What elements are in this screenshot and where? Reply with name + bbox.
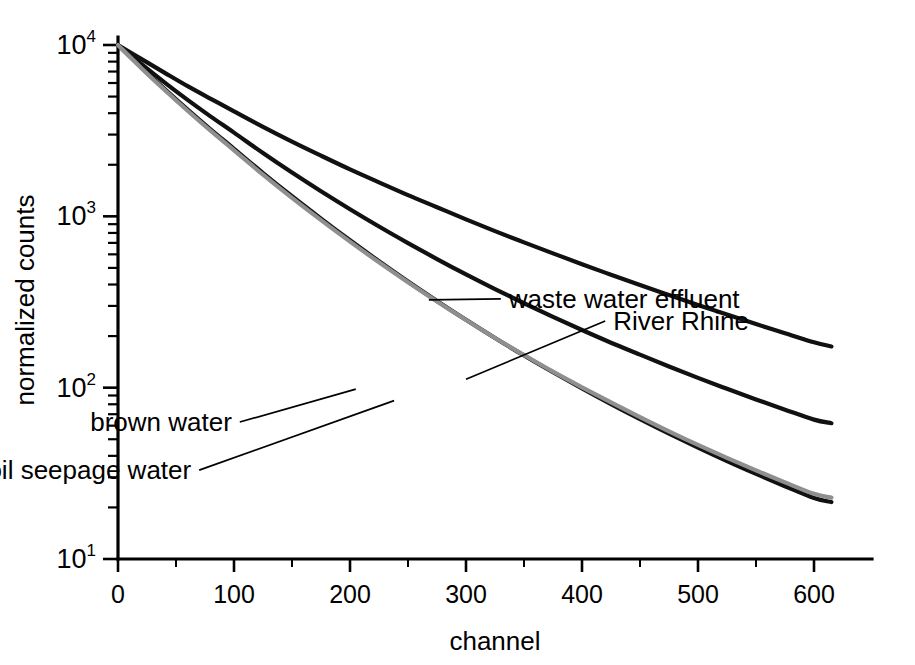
chart-figure: 101102103104 0100200300400500600 waste w… bbox=[0, 0, 915, 665]
x-tick-label: 600 bbox=[793, 580, 835, 608]
x-tick-label: 400 bbox=[561, 580, 603, 608]
annotation-leader-lines bbox=[199, 299, 605, 470]
series-curve-1 bbox=[118, 45, 831, 423]
x-tick-label: 0 bbox=[111, 580, 125, 608]
y-tick-label: 101 bbox=[56, 541, 96, 574]
line-chart-canvas: 101102103104 0100200300400500600 waste w… bbox=[0, 0, 915, 665]
x-tick-label: 500 bbox=[677, 580, 719, 608]
series-annotation-labels: waste water effluentRiver Rhinebrown wat… bbox=[0, 284, 749, 485]
leader-line-1 bbox=[466, 321, 605, 379]
x-tick-label: 300 bbox=[445, 580, 487, 608]
y-axis-tick-labels: 101102103104 bbox=[56, 27, 96, 574]
y-tick-exponent: 4 bbox=[87, 27, 96, 46]
y-tick-exponent: 1 bbox=[87, 541, 96, 560]
leader-line-0 bbox=[429, 299, 501, 300]
y-tick-exponent: 2 bbox=[87, 370, 96, 389]
y-tick-label: 104 bbox=[56, 27, 96, 60]
y-tick-exponent: 3 bbox=[87, 198, 96, 217]
series-label-1: River Rhine bbox=[613, 306, 749, 336]
y-tick-label: 102 bbox=[56, 370, 96, 403]
x-tick-label: 200 bbox=[329, 580, 371, 608]
x-axis-major-ticks bbox=[118, 559, 814, 572]
leader-line-2 bbox=[240, 389, 356, 422]
series-label-2: brown water bbox=[90, 407, 232, 437]
y-axis-title: normalized counts bbox=[10, 195, 40, 406]
x-axis-tick-labels: 0100200300400500600 bbox=[111, 580, 835, 608]
x-axis-title: channel bbox=[449, 626, 540, 656]
y-tick-label: 103 bbox=[56, 198, 96, 231]
series-label-3: soil seepage water bbox=[0, 455, 192, 485]
x-tick-label: 100 bbox=[213, 580, 255, 608]
